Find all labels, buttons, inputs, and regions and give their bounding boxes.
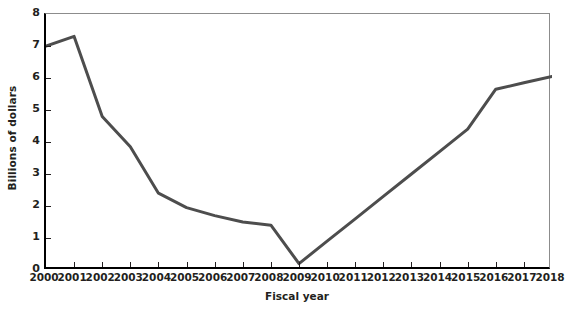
y-tick-label: 3 — [22, 167, 40, 178]
y-tick-mark — [46, 174, 51, 175]
x-tick-mark — [440, 262, 441, 267]
x-tick-mark — [524, 262, 525, 267]
x-tick-mark — [243, 262, 244, 267]
x-tick-mark — [411, 262, 412, 267]
y-tick-mark — [46, 78, 51, 79]
y-tick-label: 2 — [22, 199, 40, 210]
x-tick-mark — [468, 262, 469, 267]
plot-area — [44, 13, 550, 269]
y-tick-label: 7 — [22, 39, 40, 50]
y-tick-mark — [46, 110, 51, 111]
x-axis-title: Fiscal year — [44, 290, 550, 302]
x-tick-mark — [215, 262, 216, 267]
y-tick-label: 8 — [22, 7, 40, 18]
x-tick-mark — [102, 262, 103, 267]
x-tick-mark — [383, 262, 384, 267]
y-tick-label: 5 — [22, 103, 40, 114]
x-tick-mark — [271, 262, 272, 267]
x-tick-mark — [74, 262, 75, 267]
y-tick-mark — [46, 46, 51, 47]
x-axis-tick-labels: 2000200120022003200420052006200720082009… — [44, 271, 550, 287]
x-tick-mark — [355, 262, 356, 267]
y-tick-mark — [46, 142, 51, 143]
y-axis-title-label: Billions of dollars — [6, 85, 18, 190]
x-tick-mark — [130, 262, 131, 267]
y-tick-label: 4 — [22, 135, 40, 146]
x-tick-mark — [299, 262, 300, 267]
x-tick-label: 2018 — [533, 271, 567, 284]
data-line-svg — [46, 14, 552, 270]
x-tick-mark — [327, 262, 328, 267]
data-series-line — [46, 36, 552, 263]
y-tick-label: 6 — [22, 71, 40, 82]
y-tick-label: 1 — [22, 231, 40, 242]
y-axis-title: Billions of dollars — [0, 0, 24, 275]
x-tick-mark — [158, 262, 159, 267]
x-tick-mark — [187, 262, 188, 267]
x-tick-mark — [496, 262, 497, 267]
y-axis-tick-labels: 012345678 — [22, 0, 40, 281]
y-tick-mark — [46, 238, 51, 239]
y-tick-mark — [46, 206, 51, 207]
